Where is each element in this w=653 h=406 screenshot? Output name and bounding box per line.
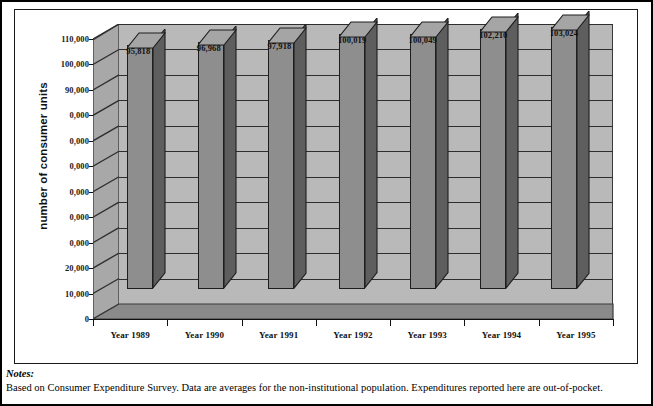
- bar-side-face: [153, 29, 165, 289]
- bar-value-label: 97,918: [267, 41, 291, 51]
- y-axis-tick-label: 0,000: [69, 187, 89, 197]
- bar-front-face: [198, 42, 224, 289]
- y-axis-tick-label: 100,000: [61, 59, 89, 69]
- x-axis-category-label: Year 1991: [259, 330, 298, 340]
- bar-column[interactable]: [268, 40, 306, 289]
- x-axis-tick: [613, 319, 614, 326]
- notes-text: Based on Consumer Expenditure Survey. Da…: [6, 382, 646, 394]
- bar-value-label: 96,968: [197, 43, 221, 53]
- x-axis-tick: [390, 319, 391, 326]
- y-axis-labels: 010,00020,0000,0000,0000,0000,0000,0000,…: [37, 10, 93, 320]
- y-axis-tick-label: 90,000: [65, 85, 89, 95]
- bar-top-face: [410, 21, 448, 35]
- bar-column[interactable]: [410, 34, 448, 289]
- bar-side-face: [577, 11, 589, 289]
- x-axis-tick: [242, 319, 243, 326]
- bar-top-face: [127, 32, 165, 46]
- bar-front-face: [551, 27, 577, 289]
- x-axis-tick: [316, 319, 317, 326]
- y-axis-tick-label: 0,000: [69, 110, 89, 120]
- plot-area: [93, 24, 613, 319]
- bar-side-face: [224, 26, 236, 289]
- bar-column[interactable]: [551, 27, 589, 289]
- x-axis-category-label: Year 1990: [185, 330, 224, 340]
- bar-side-face: [365, 18, 377, 289]
- bar-column[interactable]: [339, 34, 377, 289]
- bar-front-face: [268, 40, 294, 289]
- bar-front-face: [410, 34, 436, 289]
- bar-value-label: 95,818: [126, 46, 150, 56]
- bar-series: [93, 24, 613, 319]
- bar-top-face: [198, 29, 236, 43]
- y-axis-tick-label: 0,000: [69, 212, 89, 222]
- x-axis-category-label: Year 1994: [482, 330, 521, 340]
- bar-side-face: [506, 13, 518, 289]
- y-axis-tick-label: 0,000: [69, 136, 89, 146]
- x-axis-category-label: Year 1993: [408, 330, 447, 340]
- bar-value-label: 102,210: [479, 30, 507, 40]
- bar-value-label: 100,019: [338, 35, 366, 45]
- bar-top-face: [339, 21, 377, 35]
- bar-column[interactable]: [480, 29, 518, 289]
- y-axis-tick-label: 20,000: [65, 263, 89, 273]
- x-axis-category-label: Year 1995: [556, 330, 595, 340]
- x-axis-tick: [464, 319, 465, 326]
- bar-column[interactable]: [198, 42, 236, 289]
- y-axis-tick-label: 10,000: [65, 289, 89, 299]
- bar-side-face: [294, 24, 306, 289]
- x-axis-line: [93, 319, 613, 320]
- x-axis-category-label: Year 1989: [110, 330, 149, 340]
- x-axis-tick: [539, 319, 540, 326]
- bar-value-label: 103,024: [550, 28, 578, 38]
- bar-top-face: [268, 27, 306, 41]
- bar-front-face: [480, 29, 506, 289]
- chart-panel: number of consumer units 010,00020,0000,…: [14, 9, 638, 364]
- y-axis-tick-label: 0,000: [69, 161, 89, 171]
- x-axis-category-label: Year 1992: [333, 330, 372, 340]
- bar-value-label: 100,049: [409, 35, 437, 45]
- bar-top-face: [551, 14, 589, 28]
- bar-side-face: [436, 18, 448, 289]
- x-axis-tick: [93, 319, 94, 326]
- y-axis-tick-label: 110,000: [61, 34, 89, 44]
- figure-page: number of consumer units 010,00020,0000,…: [0, 0, 653, 406]
- bar-column[interactable]: [127, 45, 165, 289]
- chart-figure: number of consumer units 010,00020,0000,…: [15, 10, 639, 365]
- bar-top-face: [480, 16, 518, 30]
- notes-block: Notes: Based on Consumer Expenditure Sur…: [6, 368, 646, 394]
- bar-front-face: [339, 34, 365, 289]
- y-axis-tick-label: 0,000: [69, 238, 89, 248]
- x-axis-tick: [167, 319, 168, 326]
- bar-front-face: [127, 45, 153, 289]
- notes-label: Notes:: [6, 368, 646, 379]
